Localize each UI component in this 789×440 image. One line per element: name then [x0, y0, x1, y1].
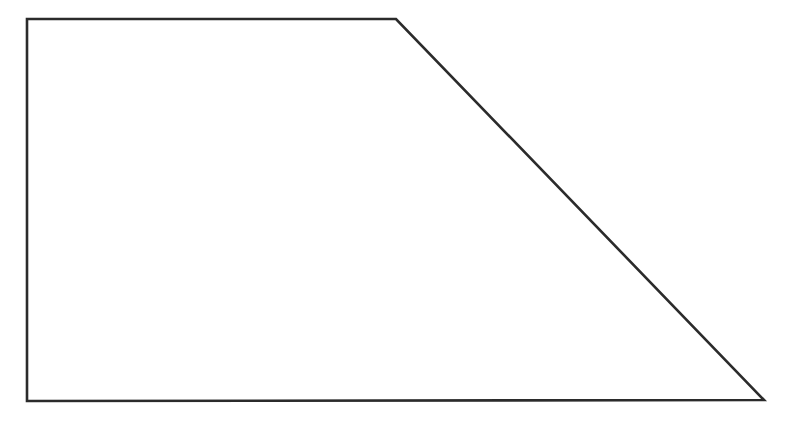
geometry-figure-svg — [0, 0, 789, 440]
figure-canvas — [0, 0, 789, 440]
right-trapezoid-outline — [27, 19, 764, 401]
